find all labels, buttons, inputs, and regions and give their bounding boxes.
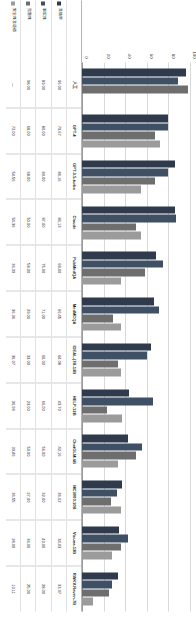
table-cell: 25.00 — [20, 566, 35, 611]
bar — [82, 360, 118, 368]
bar-group — [82, 245, 190, 291]
legend-item: 安全性及道德 — [6, 0, 20, 62]
y-axis-tick: 0 — [84, 56, 88, 58]
legend-item: 完整性 — [20, 0, 35, 62]
table-cell: 87.00 — [35, 199, 50, 244]
bar-group — [82, 108, 190, 154]
table-cell: 36.36 — [6, 291, 20, 336]
table-cell: 43.70 — [51, 383, 66, 428]
bar — [82, 206, 175, 214]
table-cell: 42.16 — [51, 429, 66, 474]
table-column: GPT-3.5-turbo86.1680.0068.0054.56 — [6, 154, 81, 200]
table-column: PubMedQA68.4075.0058.0036.39 — [6, 245, 81, 291]
table-cell: 75.00 — [35, 245, 50, 290]
bar — [82, 506, 121, 514]
bar — [82, 389, 129, 397]
bar-group — [82, 154, 190, 200]
legend-and-row-labels: 准确率事实性完整性安全性及道德 — [6, 0, 82, 62]
table-cell: 58.00 — [20, 245, 35, 290]
table-column: RWKV-Raven-7B33.3728.0025.0010.11 — [6, 566, 81, 611]
bar — [82, 543, 121, 551]
table-cell: 64.08 — [51, 337, 66, 382]
bar — [82, 268, 145, 276]
bar-group — [82, 474, 190, 520]
table-column-header: RWKV-Raven-7B — [66, 566, 81, 611]
bar — [82, 351, 147, 359]
bar — [82, 572, 118, 580]
table-cell: 86.16 — [51, 154, 66, 199]
bar — [82, 368, 121, 376]
legend-swatch-icon — [57, 1, 61, 5]
bar-group — [82, 337, 190, 383]
legend-label: 安全性及道德 — [11, 7, 15, 31]
table-column-header: GPT-3.5-turbo — [66, 154, 81, 199]
table-cell: 36.62 — [51, 474, 66, 519]
y-axis-tick: 20 — [106, 53, 110, 58]
table-cell: 54.36 — [6, 199, 20, 244]
bar — [82, 526, 119, 534]
table-column-header: Vicuna-13B — [66, 520, 81, 565]
bar-group — [82, 382, 190, 428]
table-cell: 60.00 — [35, 337, 50, 382]
bar — [82, 323, 121, 331]
table-column-header: MC3000-10B — [66, 474, 81, 519]
bar — [82, 68, 186, 76]
data-table: 人工96.0089.0098.00—GPT-479.6780.0068.0072… — [6, 62, 82, 611]
bar — [82, 580, 112, 588]
bar — [82, 297, 154, 305]
chart-canvas: 020406080100 准确率事实性完整性安全性及道德 人工96.0089.0… — [0, 0, 196, 623]
bar-group — [82, 199, 190, 245]
bar-group — [82, 520, 190, 566]
table-cell: 98.00 — [20, 62, 35, 107]
bar — [82, 177, 155, 185]
table-cell: 28.00 — [6, 520, 20, 565]
bar — [82, 140, 160, 148]
table-column-header: MedMCQA — [66, 291, 81, 336]
table-column: Claude86.1387.0050.0054.36 — [6, 199, 81, 245]
bar — [82, 251, 156, 259]
table-column-header: IDEAL-|7B-13B — [66, 337, 81, 382]
bar — [82, 489, 117, 497]
bar — [82, 406, 107, 414]
table-cell: 66.45 — [51, 291, 66, 336]
table-cell: 33.46 — [6, 429, 20, 474]
bar — [82, 160, 175, 168]
table-cell: 43.00 — [35, 520, 50, 565]
table-cell: 36.55 — [6, 474, 20, 519]
legend-label: 完整性 — [26, 7, 30, 19]
bar — [82, 231, 141, 239]
y-axis-tick: 100 — [192, 51, 196, 58]
table-cell: 89.00 — [35, 62, 50, 107]
table-column: Vicuna-13B34.0343.0036.0028.00 — [6, 520, 81, 566]
table-cell: 36.39 — [6, 245, 20, 290]
bar — [82, 185, 141, 193]
bar — [82, 443, 142, 451]
table-cell: 23.00 — [20, 383, 35, 428]
bar — [82, 434, 128, 442]
bar — [82, 343, 151, 351]
table-cell: 33.37 — [51, 566, 66, 611]
bar — [82, 480, 122, 488]
table-cell: 54.56 — [6, 154, 20, 199]
table-column: IDEAL-|7B-13B64.0860.0033.0036.07 — [6, 337, 81, 383]
table-cell: 56.00 — [35, 429, 50, 474]
table-cell: 80.00 — [35, 108, 50, 153]
legend-swatch-icon — [42, 1, 46, 5]
y-axis-tick: 60 — [149, 53, 153, 58]
table-cell: 72.00 — [6, 108, 20, 153]
table-cell: 68.40 — [51, 245, 66, 290]
bar — [82, 131, 155, 139]
table-cell: 79.67 — [51, 108, 66, 153]
table-cell: 10.11 — [6, 566, 20, 611]
table-cell: 68.00 — [20, 154, 35, 199]
table-cell: 28.00 — [35, 566, 50, 611]
row-label-corner — [66, 0, 81, 62]
table-cell: — — [6, 62, 20, 107]
table-cell: 32.00 — [35, 474, 50, 519]
table-cell: 36.99 — [6, 383, 20, 428]
bar-group — [82, 62, 190, 108]
bar — [82, 277, 121, 285]
table-cell: 66.00 — [35, 383, 50, 428]
bar — [82, 451, 136, 459]
legend-label: 准确率 — [57, 7, 61, 19]
